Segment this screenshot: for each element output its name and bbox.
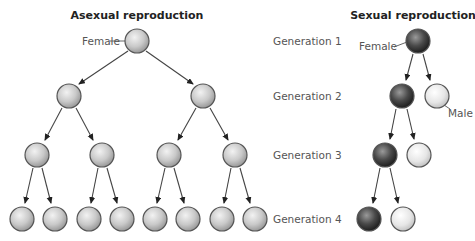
asexual-gen4-node [243, 207, 267, 231]
asexual-gen3-node [90, 143, 114, 167]
asexual-title: Asexual reproduction [71, 9, 204, 22]
asexual-gen3-node [157, 143, 181, 167]
generation-2-label: Generation 2 [273, 90, 342, 102]
asexual-gen4-node [176, 207, 200, 231]
asexual-gen2-node [191, 84, 215, 108]
sexual-gen4-male [391, 207, 415, 231]
sexual-arrows [373, 54, 430, 203]
asexual-gen3-node [25, 143, 49, 167]
sexual-male-label: Male [448, 107, 473, 119]
sexual-gen2-male [425, 84, 449, 108]
reproduction-diagram: Asexual reproduction Sexual reproduction… [0, 0, 475, 241]
asexual-gen2-node [57, 84, 81, 108]
sexual-gen2-female [390, 84, 414, 108]
generation-3-label: Generation 3 [273, 149, 342, 161]
sexual-title: Sexual reproduction [350, 9, 475, 22]
asexual-gen4-node [10, 207, 34, 231]
asexual-gen4-node [110, 207, 134, 231]
sexual-gen3-female [373, 143, 397, 167]
generation-1-label: Generation 1 [273, 35, 342, 47]
sexual-gen4-female [357, 207, 381, 231]
generation-4-label: Generation 4 [273, 213, 342, 225]
asexual-nodes [10, 29, 267, 231]
sexual-female-label: Female [359, 40, 397, 52]
asexual-gen4-node [143, 207, 167, 231]
asexual-gen4-node [77, 207, 101, 231]
sexual-nodes [357, 29, 449, 231]
asexual-gen3-node [223, 143, 247, 167]
sexual-gen1-female [406, 29, 430, 53]
asexual-arrows [25, 51, 250, 203]
asexual-gen1-female [125, 29, 149, 53]
asexual-gen4-node [43, 207, 67, 231]
asexual-gen4-node [210, 207, 234, 231]
sexual-gen3-male [407, 143, 431, 167]
